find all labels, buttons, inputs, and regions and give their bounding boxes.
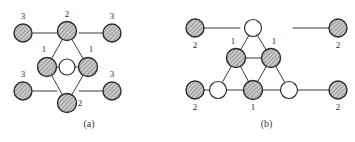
panel-b-caption: (b) (178, 118, 355, 129)
mid-left-node[interactable] (227, 49, 246, 68)
outer-bottom-right-node[interactable] (103, 82, 121, 100)
outer-top-right-node[interactable] (329, 19, 347, 37)
top-apex-node[interactable] (58, 22, 77, 41)
right-inner-node-label: 1 (89, 44, 94, 54)
right-inner-node[interactable] (79, 58, 98, 77)
outer-bottom-left-node-label: 3 (21, 69, 26, 79)
left-inner-node[interactable] (38, 58, 57, 77)
bottom-right-open-node[interactable] (281, 82, 298, 99)
triangle-apex-open-node[interactable] (245, 20, 262, 37)
outer-top-right-node-label: 2 (336, 40, 341, 50)
outer-bottom-right-node[interactable] (329, 81, 347, 99)
top-apex-node-label: 2 (65, 9, 70, 19)
outer-bottom-left-node[interactable] (186, 81, 204, 99)
label-group-b: 2211122 (193, 36, 341, 112)
mid-right-node[interactable] (262, 49, 281, 68)
bottom-left-open-node[interactable] (210, 82, 227, 99)
mid-right-node-label: 1 (272, 36, 277, 46)
bottom-apex-node[interactable] (58, 94, 77, 113)
bottom-mid-node[interactable] (244, 81, 263, 100)
outer-top-left-node[interactable] (186, 19, 204, 37)
outer-bottom-left-node-label: 2 (193, 102, 198, 112)
bottom-mid-node-label: 1 (251, 102, 256, 112)
outer-bottom-right-node-label: 2 (336, 102, 341, 112)
figure-root: 23311332 2211122 (a) (b) (0, 0, 355, 142)
outer-bottom-left-node[interactable] (14, 82, 32, 100)
outer-top-right-node[interactable] (103, 24, 121, 42)
node-group-b (186, 19, 347, 100)
node-group-a (14, 22, 121, 113)
mid-left-node-label: 1 (231, 36, 236, 46)
center-open-node[interactable] (59, 59, 75, 75)
outer-top-left-node-label: 2 (193, 40, 198, 50)
panel-a-caption: (a) (0, 118, 178, 129)
outer-top-left-node[interactable] (14, 24, 32, 42)
bottom-apex-node-label: 2 (78, 98, 83, 108)
outer-top-left-node-label: 3 (21, 11, 26, 21)
outer-bottom-right-node-label: 3 (110, 69, 115, 79)
left-inner-node-label: 1 (42, 44, 47, 54)
outer-top-right-node-label: 3 (110, 11, 115, 21)
